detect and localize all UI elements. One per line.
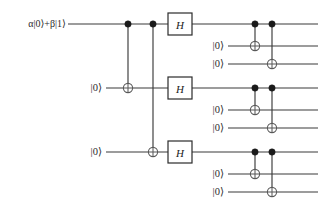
control-dot-cnot-q0-q6 (150, 21, 156, 27)
ket-zero-label-q7: |0⟩ (0, 169, 224, 180)
ket-zero-label-q6: |0⟩ (0, 147, 102, 158)
control-dot-cnot-q0-q1 (252, 21, 258, 27)
control-dot-cnot-q6-q7 (252, 149, 258, 155)
gate-label-hadamard-q3: H (175, 83, 185, 95)
ket-zero-label-q3: |0⟩ (0, 83, 102, 94)
ket-zero-label-q5: |0⟩ (0, 123, 224, 134)
control-dot-cnot-q3-q4 (252, 85, 258, 91)
ket-zero-label-q4: |0⟩ (0, 105, 224, 116)
gate-label-hadamard-q0: H (175, 19, 185, 31)
control-dot-cnot-q3-q5 (269, 85, 275, 91)
control-dot-cnot-q6-q8 (269, 149, 275, 155)
input-state-label-q0: α|0⟩+β|1⟩ (0, 19, 66, 29)
ket-zero-label-q1: |0⟩ (0, 41, 224, 52)
control-dot-cnot-q0-q3 (125, 21, 131, 27)
gate-label-hadamard-q6: H (175, 147, 185, 159)
ket-zero-label-q2: |0⟩ (0, 59, 224, 70)
quantum-circuit-diagram: HHH α|0⟩+β|1⟩|0⟩|0⟩|0⟩|0⟩|0⟩|0⟩|0⟩|0⟩ (0, 0, 336, 213)
ket-zero-label-q8: |0⟩ (0, 187, 224, 198)
control-dot-cnot-q0-q2 (269, 21, 275, 27)
